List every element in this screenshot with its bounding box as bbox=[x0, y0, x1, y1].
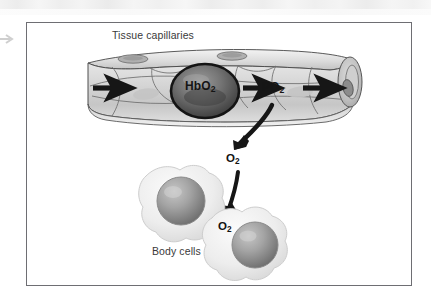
label-hbo2-subscript: 2 bbox=[211, 84, 216, 94]
figure-root: Tissue capillaries HbO2 PO2 O2 O2 Body c… bbox=[0, 0, 431, 305]
illustration-canvas bbox=[0, 0, 431, 305]
body-cell-right bbox=[202, 207, 287, 280]
body-cell-right-nucleus bbox=[232, 222, 278, 268]
label-hbo2: HbO2 bbox=[185, 79, 216, 93]
label-o2-lower: O2 bbox=[218, 220, 232, 232]
label-tissue-capillaries: Tissue capillaries bbox=[112, 29, 194, 41]
label-hbo2-text: HbO bbox=[185, 79, 211, 93]
label-po2: PO2 bbox=[262, 80, 284, 94]
label-o2-lower-text: O bbox=[218, 220, 227, 232]
body-cell-left-nucleus bbox=[157, 177, 205, 225]
label-body-cells: Body cells bbox=[152, 245, 201, 257]
label-po2-subscript: 2 bbox=[280, 85, 285, 95]
label-o2-upper-text: O bbox=[226, 152, 235, 164]
label-o2-upper-subscript: 2 bbox=[235, 157, 240, 166]
label-po2-text: PO bbox=[262, 80, 280, 94]
capillary-lumen-opening bbox=[338, 57, 362, 107]
label-o2-upper: O2 bbox=[226, 152, 240, 164]
label-o2-lower-subscript: 2 bbox=[227, 225, 232, 234]
